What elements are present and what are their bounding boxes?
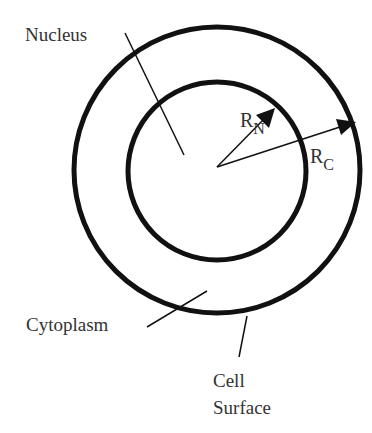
cell-surface-leader-line <box>239 316 247 357</box>
rc-arrow <box>217 119 356 167</box>
nuclear-membrane-circle <box>128 82 306 260</box>
cell-membrane-circle <box>74 27 360 313</box>
rc-label: RC <box>310 145 334 173</box>
nucleus-label: Nucleus <box>25 24 87 45</box>
cell-surface-label-line1: Cell <box>213 370 245 391</box>
cytoplasm-leader-line <box>147 291 207 327</box>
cytoplasm-label: Cytoplasm <box>26 314 109 335</box>
cell-surface-label-line2: Surface <box>213 397 271 418</box>
cell-diagram: Nucleus RN RC Cytoplasm Cell Surface <box>0 0 372 433</box>
